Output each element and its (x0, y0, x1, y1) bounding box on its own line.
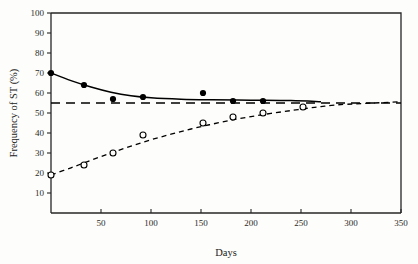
data-point-open (48, 172, 54, 178)
axis-frame (51, 13, 401, 213)
y-tick-label: 10 (35, 188, 45, 198)
x-tick-label: 150 (194, 218, 208, 228)
data-point-open (81, 162, 87, 168)
data-point-filled (260, 98, 266, 104)
x-tick-label: 300 (344, 218, 358, 228)
y-tick-label: 40 (35, 128, 45, 138)
curve-open-circles (51, 102, 401, 175)
data-point-open (300, 104, 306, 110)
y-axis-title: Frequency of ST (%) (8, 68, 20, 157)
x-axis-ticks: 50100150200250300350 (97, 209, 409, 228)
chart-canvas: 102030405060708090100 501001502002503003… (0, 0, 418, 264)
data-point-open (200, 120, 206, 126)
y-axis-ticks: 102030405060708090100 (31, 8, 52, 198)
data-point-filled (230, 98, 236, 104)
y-tick-label: 50 (35, 108, 45, 118)
y-tick-label: 20 (35, 168, 45, 178)
y-tick-label: 90 (35, 28, 45, 38)
y-tick-label: 30 (35, 148, 45, 158)
x-axis-title: Days (215, 247, 237, 258)
y-tick-label: 80 (35, 48, 45, 58)
x-tick-label: 200 (244, 218, 258, 228)
data-point-open (260, 110, 266, 116)
y-tick-label: 60 (35, 88, 45, 98)
data-point-open (230, 114, 236, 120)
x-tick-label: 50 (97, 218, 107, 228)
x-tick-label: 250 (294, 218, 308, 228)
x-tick-label: 100 (144, 218, 158, 228)
series-filled-circles (48, 70, 321, 104)
y-tick-label: 100 (31, 8, 45, 18)
data-point-filled (140, 94, 146, 100)
x-tick-label: 350 (394, 218, 408, 228)
y-tick-label: 70 (35, 68, 45, 78)
data-point-filled (48, 70, 54, 76)
curve-filled-circles (51, 73, 321, 102)
figure-chart: 102030405060708090100 501001502002503003… (0, 0, 418, 264)
series-open-circles (48, 102, 401, 178)
data-point-filled (110, 96, 116, 102)
data-point-filled (81, 82, 87, 88)
data-point-filled (200, 90, 206, 96)
data-point-open (140, 132, 146, 138)
data-point-open (110, 150, 116, 156)
data-series-layer (48, 70, 401, 178)
